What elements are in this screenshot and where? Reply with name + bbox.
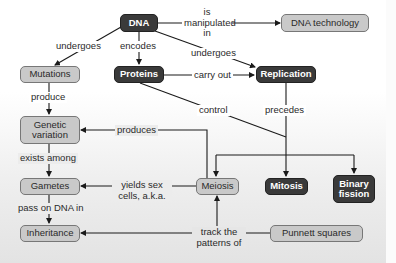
link-label-carry-out: carry out (192, 70, 233, 81)
node-label: DNA technology (291, 18, 359, 29)
node-label: Mutations (29, 69, 70, 80)
node-dna: DNA (120, 14, 158, 32)
node-label: Genetic variation (29, 120, 71, 141)
node-punnett-squares: Punnett squares (270, 225, 363, 242)
node-inheritance: Inheritance (20, 225, 80, 242)
link-label-yields-sex-cells: yields sex cells, a.k.a. (112, 180, 172, 201)
link-label-encodes: encodes (118, 41, 158, 52)
node-label: Mitosis (270, 181, 303, 192)
node-replication: Replication (256, 66, 316, 83)
node-mutations: Mutations (20, 66, 80, 83)
node-proteins: Proteins (114, 66, 164, 83)
node-label: Inheritance (26, 228, 73, 239)
link-label-pass-on-dna-in: pass on DNA in (16, 203, 85, 214)
link-label-produce: produce (29, 92, 67, 103)
node-label: Gametes (31, 181, 70, 192)
node-label: Proteins (120, 69, 158, 80)
link-label-exists-among: exists among (18, 153, 78, 164)
link-label-undergoes-mutations: undergoes (54, 41, 103, 52)
link-label-track-the-patterns-of: track the patterns of (192, 227, 246, 248)
node-binary-fission: Binary fission (333, 175, 375, 203)
node-gametes: Gametes (20, 178, 80, 195)
node-label: DNA (129, 18, 150, 29)
node-dna-technology: DNA technology (281, 14, 369, 32)
node-label: Binary fission (338, 179, 370, 200)
node-label: Punnett squares (282, 228, 351, 239)
node-label: Replication (260, 69, 311, 80)
link-label-control: control (197, 105, 230, 116)
node-mitosis: Mitosis (265, 178, 308, 195)
link-label-is-manipulated-in: is manipulated in (182, 7, 232, 39)
link-label-produces: produces (115, 125, 158, 136)
link-label-precedes: precedes (263, 105, 306, 116)
node-label: Meiosis (201, 181, 233, 192)
link-label-undergoes-replication: undergoes (189, 48, 238, 59)
node-genetic-variation: Genetic variation (20, 116, 80, 144)
node-meiosis: Meiosis (196, 178, 239, 195)
